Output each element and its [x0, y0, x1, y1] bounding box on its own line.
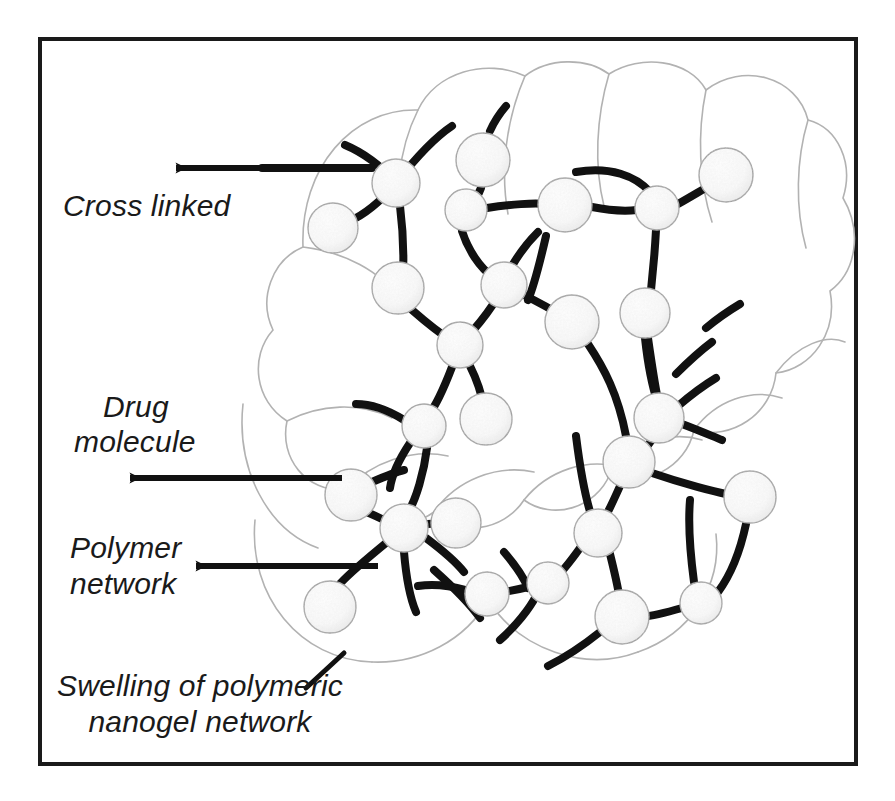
particle	[372, 262, 424, 314]
particle	[308, 203, 358, 253]
particle	[699, 148, 753, 202]
particle	[603, 436, 655, 488]
diagram-canvas: Cross linked Drug molecule Polymer netwo…	[0, 0, 895, 801]
label-cross-linked: Cross linked	[63, 189, 232, 222]
particle	[402, 404, 446, 448]
particle	[431, 498, 481, 548]
particle	[538, 178, 592, 232]
label-swelling-line2: nanogel network	[88, 705, 313, 738]
particle	[445, 189, 487, 231]
callout-labels: Cross linked Drug molecule Polymer netwo…	[57, 189, 343, 738]
particle	[437, 322, 483, 368]
particle	[634, 393, 684, 443]
particle	[545, 295, 599, 349]
label-swelling-line1: Swelling of polymeric	[57, 669, 343, 702]
particle	[481, 262, 527, 308]
particle	[465, 572, 509, 616]
nanogel-diagram-figure: Cross linked Drug molecule Polymer netwo…	[0, 0, 895, 801]
nanogel-cloud-outline	[258, 62, 854, 528]
label-polymer-network-line1: Polymer	[70, 531, 182, 564]
particle	[380, 504, 428, 552]
particle	[620, 288, 670, 338]
label-drug-molecule-line1: Drug	[103, 390, 169, 423]
particle	[635, 186, 679, 230]
label-polymer-network-line2: network	[70, 567, 178, 600]
particle	[595, 590, 649, 644]
particle	[724, 471, 776, 523]
label-drug-molecule-line2: molecule	[74, 425, 196, 458]
particle	[527, 562, 569, 604]
particle	[460, 393, 512, 445]
particle	[680, 582, 722, 624]
particle	[304, 581, 356, 633]
particle	[372, 159, 420, 207]
particle	[574, 509, 622, 557]
particle	[456, 133, 510, 187]
